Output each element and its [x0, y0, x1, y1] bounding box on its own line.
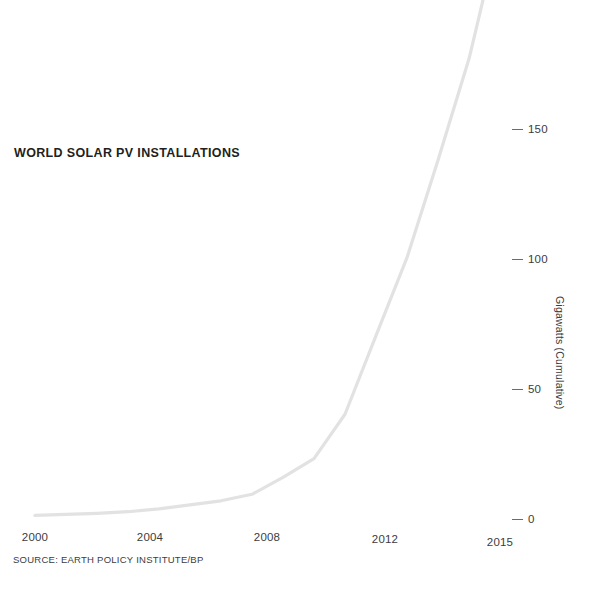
source-note: SOURCE: EARTH POLICY INSTITUTE/BP: [13, 554, 204, 565]
y-axis-title: Gigawatts (Cumulative): [554, 296, 566, 410]
y-axis-tick-label: 100: [528, 253, 548, 265]
y-tick-mark-icon: [512, 389, 523, 390]
x-axis-tick-label-2004: 2004: [137, 531, 163, 543]
y-axis-tick-label: 150: [528, 123, 548, 135]
chart-title: WORLD SOLAR PV INSTALLATIONS: [14, 146, 240, 160]
x-axis-tick-label-2000: 2000: [22, 531, 48, 543]
y-axis-tick-50: 50: [512, 383, 541, 395]
y-axis-tick-150: 150: [512, 123, 548, 135]
y-axis-tick-0: 0: [512, 513, 535, 525]
line-chart-plot: [0, 0, 594, 589]
y-axis-tick-100: 100: [512, 253, 548, 265]
y-tick-mark-icon: [512, 519, 523, 520]
chart-figure: WORLD SOLAR PV INSTALLATIONS 150 100 50 …: [0, 0, 594, 589]
x-axis-tick-label-2008: 2008: [254, 531, 280, 543]
y-tick-mark-icon: [512, 259, 523, 260]
y-tick-mark-icon: [512, 129, 523, 130]
x-axis-tick-label-2015: 2015: [487, 536, 513, 548]
x-axis-tick-label-2012: 2012: [372, 533, 398, 545]
series-line-world-solar-pv: [35, 0, 500, 515]
y-axis-tick-label: 0: [528, 513, 535, 525]
y-axis-tick-label: 50: [528, 383, 541, 395]
